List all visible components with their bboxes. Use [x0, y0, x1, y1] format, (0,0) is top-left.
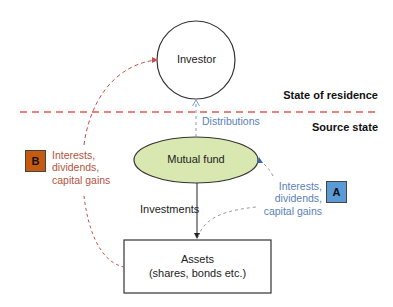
- investments-arrowhead-icon: [194, 233, 200, 239]
- flow-a-line-2: dividends,: [262, 192, 322, 204]
- investments-label: Investments: [140, 203, 199, 216]
- flow-b-lower-curve: [84, 196, 124, 267]
- flow-b-text: Interests, dividends, capital gains: [52, 149, 110, 186]
- flow-b-badge: B: [25, 150, 46, 172]
- flow-b-line-3: capital gains: [52, 174, 110, 186]
- source-state-label: Source state: [312, 121, 378, 134]
- investor-label: Investor: [158, 53, 235, 66]
- flow-a-lower-curve: [198, 207, 256, 237]
- flow-a-upper-curve: [260, 161, 273, 176]
- assets-sublabel: (shares, bonds etc.): [124, 267, 271, 280]
- flow-a-line-3: capital gains: [262, 205, 322, 217]
- state-of-residence-label: State of residence: [283, 89, 378, 102]
- flow-b-upper-curve: [84, 60, 156, 145]
- flow-a-badge: A: [326, 181, 347, 203]
- mutual-fund-label: Mutual fund: [134, 153, 258, 166]
- flow-a-text: Interests, dividends, capital gains: [262, 180, 322, 217]
- flow-b-line-1: Interests,: [52, 149, 110, 161]
- flow-a-line-1: Interests,: [262, 180, 322, 192]
- flow-b-line-2: dividends,: [52, 161, 110, 173]
- assets-label: Assets: [124, 253, 271, 266]
- distributions-label: Distributions: [202, 115, 260, 127]
